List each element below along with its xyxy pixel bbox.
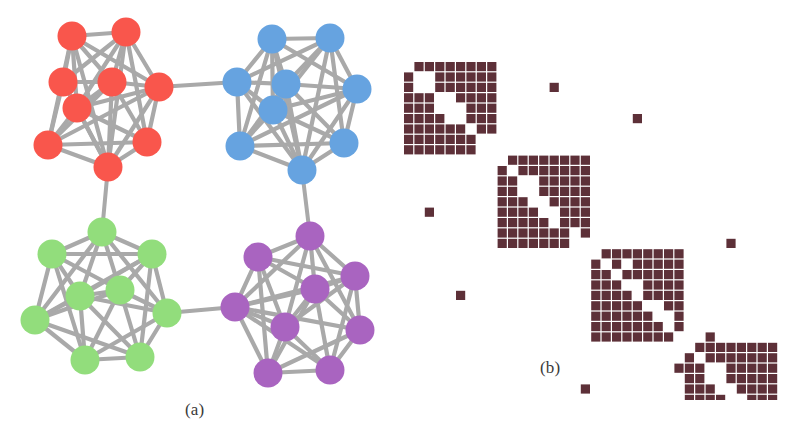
matrix-cell-green[interactable]	[674, 249, 683, 258]
matrix-cell-green[interactable]	[591, 312, 600, 321]
matrix-cell-purple[interactable]	[758, 395, 767, 400]
matrix-cell-green[interactable]	[591, 322, 600, 331]
matrix-cell-purple[interactable]	[695, 343, 704, 352]
matrix-cell-red[interactable]	[414, 124, 423, 133]
matrix-cell-green[interactable]	[643, 322, 652, 331]
matrix-cell-green[interactable]	[602, 270, 611, 279]
matrix-cell-purple[interactable]	[768, 384, 777, 393]
matrix-cell-blue[interactable]	[560, 208, 569, 217]
matrix-cell-green[interactable]	[622, 291, 631, 300]
matrix-cell-red[interactable]	[446, 124, 455, 133]
matrix-cell-blue[interactable]	[550, 228, 559, 237]
matrix-cell-blue[interactable]	[570, 218, 579, 227]
matrix-cell-blue[interactable]	[518, 156, 527, 165]
graph-node[interactable]	[330, 129, 359, 158]
matrix-cell-red[interactable]	[466, 62, 475, 71]
matrix-cell-red[interactable]	[487, 62, 496, 71]
matrix-cell-purple[interactable]	[685, 395, 694, 400]
matrix-cell-green[interactable]	[674, 270, 683, 279]
matrix-cell-green[interactable]	[591, 301, 600, 310]
matrix-cell-red[interactable]	[477, 93, 486, 102]
matrix-cell-red[interactable]	[404, 114, 413, 123]
matrix-cell-purple[interactable]	[758, 353, 767, 362]
matrix-cell-red[interactable]	[456, 93, 465, 102]
matrix-cell-red[interactable]	[425, 135, 434, 144]
matrix-cell-red[interactable]	[477, 72, 486, 81]
matrix-cell-purple[interactable]	[747, 343, 756, 352]
matrix-cell-red[interactable]	[414, 62, 423, 71]
matrix-cell-red[interactable]	[466, 83, 475, 92]
graph-node[interactable]	[221, 293, 250, 322]
matrix-cell-blue[interactable]	[508, 218, 517, 227]
matrix-cell-red[interactable]	[435, 135, 444, 144]
matrix-cell-red[interactable]	[446, 135, 455, 144]
matrix-cell-red[interactable]	[414, 135, 423, 144]
matrix-cell-green[interactable]	[664, 291, 673, 300]
matrix-cell-red[interactable]	[466, 72, 475, 81]
matrix-cell-green[interactable]	[612, 249, 621, 258]
matrix-cell-red[interactable]	[446, 72, 455, 81]
matrix-cell-blue[interactable]	[560, 218, 569, 227]
matrix-cell-purple[interactable]	[695, 364, 704, 373]
matrix-cell-green[interactable]	[654, 270, 663, 279]
matrix-cell-green[interactable]	[612, 322, 621, 331]
matrix-cell-purple[interactable]	[758, 384, 767, 393]
matrix-cell-green[interactable]	[612, 280, 621, 289]
matrix-cell-blue[interactable]	[560, 228, 569, 237]
matrix-cell-green[interactable]	[654, 260, 663, 269]
matrix-cell-purple[interactable]	[768, 353, 777, 362]
matrix-cell-blue[interactable]	[508, 187, 517, 196]
matrix-cell-blue[interactable]	[550, 176, 559, 185]
matrix-cell-blue[interactable]	[581, 166, 590, 175]
matrix-cell-purple[interactable]	[695, 395, 704, 400]
matrix-cell-blue[interactable]	[539, 156, 548, 165]
matrix-cell-red[interactable]	[477, 83, 486, 92]
matrix-cell-red[interactable]	[446, 83, 455, 92]
matrix-cell-purple[interactable]	[716, 353, 725, 362]
matrix-cell-red[interactable]	[477, 104, 486, 113]
matrix-cell-green[interactable]	[664, 280, 673, 289]
matrix-cell-offdiagonal[interactable]	[456, 291, 465, 300]
matrix-cell-red[interactable]	[456, 72, 465, 81]
matrix-cell-offdiagonal[interactable]	[581, 384, 590, 393]
matrix-cell-purple[interactable]	[685, 353, 694, 362]
matrix-cell-purple[interactable]	[768, 374, 777, 383]
matrix-cell-blue[interactable]	[518, 208, 527, 217]
graph-node[interactable]	[346, 316, 375, 345]
graph-node[interactable]	[316, 24, 345, 53]
matrix-cell-red[interactable]	[435, 114, 444, 123]
matrix-cell-red[interactable]	[425, 114, 434, 123]
matrix-cell-purple[interactable]	[695, 384, 704, 393]
matrix-cell-blue[interactable]	[560, 187, 569, 196]
matrix-cell-offdiagonal[interactable]	[674, 364, 683, 373]
matrix-cell-blue[interactable]	[570, 187, 579, 196]
matrix-cell-blue[interactable]	[560, 156, 569, 165]
matrix-cell-purple[interactable]	[758, 343, 767, 352]
matrix-cell-green[interactable]	[612, 312, 621, 321]
matrix-cell-purple[interactable]	[737, 364, 746, 373]
matrix-cell-green[interactable]	[622, 332, 631, 341]
matrix-cell-red[interactable]	[466, 104, 475, 113]
matrix-cell-green[interactable]	[643, 312, 652, 321]
graph-node[interactable]	[226, 132, 255, 161]
matrix-cell-purple[interactable]	[695, 374, 704, 383]
matrix-cell-blue[interactable]	[550, 166, 559, 175]
matrix-cell-purple[interactable]	[768, 395, 777, 400]
matrix-cell-green[interactable]	[654, 249, 663, 258]
matrix-cell-green[interactable]	[654, 291, 663, 300]
graph-node[interactable]	[133, 128, 162, 157]
matrix-cell-blue[interactable]	[570, 156, 579, 165]
matrix-cell-red[interactable]	[425, 124, 434, 133]
matrix-cell-purple[interactable]	[716, 395, 725, 400]
graph-node[interactable]	[341, 262, 370, 291]
matrix-cell-blue[interactable]	[529, 156, 538, 165]
graph-node[interactable]	[112, 18, 141, 47]
matrix-cell-red[interactable]	[404, 104, 413, 113]
matrix-cell-red[interactable]	[404, 124, 413, 133]
matrix-cell-blue[interactable]	[498, 228, 507, 237]
graph-node[interactable]	[66, 282, 95, 311]
matrix-cell-green[interactable]	[633, 301, 642, 310]
matrix-cell-red[interactable]	[435, 83, 444, 92]
matrix-cell-red[interactable]	[466, 145, 475, 154]
matrix-cell-blue[interactable]	[518, 218, 527, 227]
